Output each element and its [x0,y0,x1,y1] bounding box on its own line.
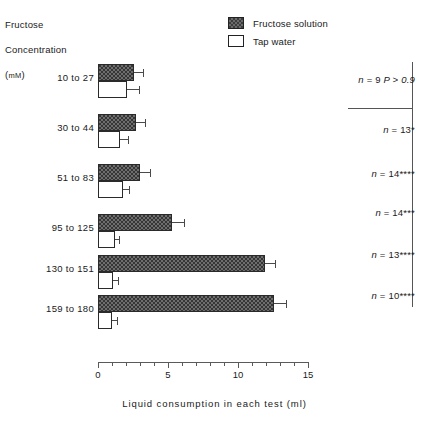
error-cap-icon [275,260,276,268]
legend-item-tap-water: Tap water [228,32,328,50]
error-cap-icon [129,186,130,194]
stat-annotation-5: n = 10**** [372,290,415,301]
bar-tap-water-5 [98,312,112,329]
error-bar-tap-water-5 [112,320,118,321]
legend: Fructose solution Tap water [228,14,328,50]
stats-bracket-divider [348,108,413,109]
error-bar-fructose-solution-4 [265,263,276,264]
category-label-4: 130 to 151 [8,263,94,274]
x-axis-minor-tick [126,362,127,366]
stat-annotation-0: n = 9 P > 0.9 [358,74,415,85]
bar-fructose-solution-0 [98,64,134,81]
error-cap-icon [139,86,140,94]
bar-fructose-solution-4 [98,255,265,272]
x-axis-minor-tick [196,362,197,366]
x-axis-tick-label-0: 0 [88,369,108,380]
error-bar-fructose-solution-1 [136,122,146,123]
x-axis-minor-tick [280,362,281,366]
bar-tap-water-3 [98,231,115,248]
error-cap-icon [145,119,146,127]
error-bar-tap-water-0 [127,89,140,90]
legend-label-tap-water: Tap water [253,36,296,47]
category-label-5: 159 to 180 [8,303,94,314]
error-bar-fructose-solution-2 [140,172,151,173]
error-cap-icon [119,236,120,244]
stats-bracket-top [412,62,413,108]
category-label-1: 30 to 44 [8,122,94,133]
x-axis-minor-tick [210,362,211,366]
legend-swatch-tap-water-icon [228,35,244,47]
category-label-0: 10 to 27 [8,72,94,83]
bar-tap-water-0 [98,81,127,98]
x-axis-minor-tick [266,362,267,366]
legend-label-fructose-solution: Fructose solution [253,18,328,29]
bar-fructose-solution-5 [98,295,274,312]
bar-fructose-solution-1 [98,114,136,131]
error-cap-icon [117,317,118,325]
stat-annotation-4: n = 13**** [372,249,415,260]
x-axis-title: Liquid consumption in each test (ml) [0,398,421,409]
bar-tap-water-2 [98,181,123,198]
x-axis-tick-label-1: 5 [158,369,178,380]
category-label-2: 51 to 83 [8,172,94,183]
bar-tap-water-4 [98,272,113,289]
error-cap-icon [184,219,185,227]
stat-annotation-3: n = 14*** [375,207,415,218]
error-cap-icon [128,136,129,144]
bar-fructose-solution-2 [98,164,140,181]
bar-fructose-solution-3 [98,214,172,231]
x-axis-minor-tick [154,362,155,366]
error-bar-fructose-solution-0 [134,72,144,73]
stat-annotation-2: n = 14**** [372,168,415,179]
category-label-3: 95 to 125 [8,222,94,233]
y-axis-title-line1: Fructose [5,19,67,32]
x-axis-tick-label-2: 10 [228,369,248,380]
bar-tap-water-1 [98,131,120,148]
legend-item-fructose-solution: Fructose solution [228,14,328,32]
plot-area [98,58,308,363]
error-cap-icon [143,69,144,77]
x-axis-major-tick [308,362,309,368]
stat-annotation-1: n = 13* [383,124,415,135]
x-axis-minor-tick [112,362,113,366]
x-axis-major-tick [238,362,239,368]
legend-swatch-fructose-solution-icon [228,17,244,29]
x-axis-minor-tick [252,362,253,366]
x-axis-minor-tick [182,362,183,366]
error-bar-fructose-solution-5 [274,303,287,304]
x-axis-minor-tick [140,362,141,366]
x-axis-minor-tick [224,362,225,366]
y-axis-title-line2: Concentration [5,44,67,57]
error-cap-icon [286,300,287,308]
x-axis-minor-tick [294,362,295,366]
x-axis-major-tick [168,362,169,368]
error-bar-fructose-solution-3 [172,222,185,223]
x-axis-tick-label-3: 15 [298,369,318,380]
error-bar-tap-water-4 [113,280,119,281]
error-bar-tap-water-1 [120,139,128,140]
error-bar-tap-water-3 [115,239,121,240]
error-bar-tap-water-2 [123,189,130,190]
error-cap-icon [150,169,151,177]
x-axis: 051015 [98,362,308,363]
figure-chart: Fructose Concentration (mM) Fructose sol… [0,0,421,427]
error-cap-icon [118,277,119,285]
x-axis-major-tick [98,362,99,368]
